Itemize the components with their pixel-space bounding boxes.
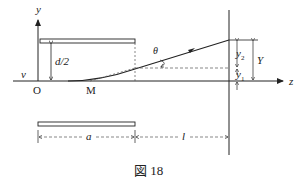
exit-point-label: M <box>86 84 96 96</box>
half-gap-label: d/2 <box>55 55 70 67</box>
velocity-label: v <box>21 68 26 80</box>
z-axis-label: z <box>288 75 294 87</box>
y-axis-label: y <box>35 3 41 15</box>
angle-label: θ <box>153 45 158 56</box>
top-plate <box>40 39 135 43</box>
l-label: l <box>182 130 185 142</box>
origin-label: O <box>33 84 41 96</box>
figure-caption: 図 18 <box>0 160 297 179</box>
bottom-plate <box>38 122 135 126</box>
particle-trajectory <box>68 40 229 81</box>
deflection-diagram: y z O v d/2 M θ y2 y1 Y a l <box>0 0 297 184</box>
y2-label: y2 <box>235 47 245 62</box>
Y-label: Y <box>257 54 265 66</box>
a-label: a <box>86 130 92 142</box>
